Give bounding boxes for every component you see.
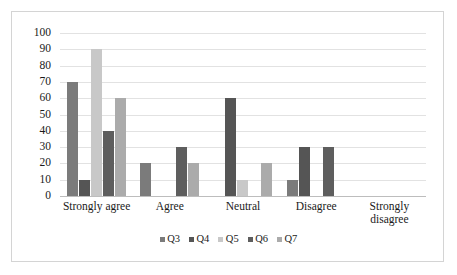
legend-item-label: Q5 bbox=[226, 234, 239, 245]
bar-q3-strongly-agree bbox=[67, 82, 78, 196]
legend-swatch-icon bbox=[248, 237, 253, 242]
bar-q7-neutral bbox=[261, 163, 272, 196]
x-axis-label-strongly-agree: Strongly agree bbox=[60, 200, 133, 213]
legend-item-q4[interactable]: Q4 bbox=[189, 234, 209, 245]
legend-swatch-icon bbox=[218, 237, 223, 242]
bar-slot bbox=[299, 33, 310, 196]
bar-slot bbox=[249, 33, 260, 196]
bar-slot bbox=[408, 33, 419, 196]
y-axis-tick-60: 60 bbox=[40, 92, 52, 104]
plot-area bbox=[60, 33, 426, 196]
legend-item-label: Q6 bbox=[255, 234, 268, 245]
bar-slot bbox=[323, 33, 334, 196]
bar-slot bbox=[176, 33, 187, 196]
bar-slot bbox=[287, 33, 298, 196]
chart-legend: Q3Q4Q5Q6Q7 bbox=[12, 234, 445, 245]
bar-slot bbox=[140, 33, 151, 196]
bar-q4-disagree bbox=[299, 147, 310, 196]
x-axis-label-agree: Agree bbox=[133, 200, 206, 213]
legend-item-label: Q4 bbox=[196, 234, 209, 245]
bar-q6-disagree bbox=[323, 147, 334, 196]
bar-slot bbox=[188, 33, 199, 196]
y-axis-tick-40: 40 bbox=[40, 125, 52, 137]
bar-q6-strongly-agree bbox=[103, 131, 114, 196]
bar-group bbox=[206, 33, 279, 196]
bar-q4-neutral bbox=[225, 98, 236, 196]
bar-slot bbox=[335, 33, 346, 196]
bar-slot bbox=[79, 33, 90, 196]
y-axis-tick-10: 10 bbox=[40, 174, 52, 186]
bar-slot bbox=[311, 33, 322, 196]
legend-swatch-icon bbox=[189, 237, 194, 242]
bar-group bbox=[133, 33, 206, 196]
bar-group bbox=[353, 33, 426, 196]
bar-q3-disagree bbox=[287, 180, 298, 196]
legend-item-q6[interactable]: Q6 bbox=[248, 234, 268, 245]
bar-slot bbox=[103, 33, 114, 196]
bar-slot bbox=[225, 33, 236, 196]
y-axis-tick-70: 70 bbox=[40, 76, 52, 88]
bar-q5-neutral bbox=[237, 180, 248, 196]
bar-slot bbox=[396, 33, 407, 196]
bar-q7-strongly-agree bbox=[115, 98, 126, 196]
y-axis: 1009080706050403020100 bbox=[12, 33, 56, 196]
bar-slot bbox=[372, 33, 383, 196]
y-axis-tick-0: 0 bbox=[45, 190, 51, 202]
bar-q4-strongly-agree bbox=[79, 180, 90, 196]
bar-slot bbox=[213, 33, 224, 196]
legend-item-label: Q7 bbox=[285, 234, 298, 245]
chart-frame: 1009080706050403020100 Strongly agreeAgr… bbox=[11, 11, 444, 262]
y-axis-tick-30: 30 bbox=[40, 141, 52, 153]
legend-item-q5[interactable]: Q5 bbox=[218, 234, 238, 245]
bar-slot bbox=[152, 33, 163, 196]
bar-q3-agree bbox=[140, 163, 151, 196]
bar-series-layer bbox=[60, 33, 426, 196]
y-axis-tick-50: 50 bbox=[40, 109, 52, 121]
bar-q5-strongly-agree bbox=[91, 49, 102, 196]
bar-slot bbox=[67, 33, 78, 196]
bar-group bbox=[60, 33, 133, 196]
legend-item-q7[interactable]: Q7 bbox=[277, 234, 297, 245]
x-axis-label-neutral: Neutral bbox=[206, 200, 279, 213]
bar-q6-agree bbox=[176, 147, 187, 196]
legend-item-q3[interactable]: Q3 bbox=[160, 234, 180, 245]
bar-q7-agree bbox=[188, 163, 199, 196]
bar-slot bbox=[164, 33, 175, 196]
y-axis-tick-90: 90 bbox=[40, 44, 52, 56]
gridline-0 bbox=[60, 196, 426, 197]
bar-slot bbox=[237, 33, 248, 196]
x-axis-label-strongly-disagree: Strongly disagree bbox=[353, 200, 426, 226]
bar-slot bbox=[384, 33, 395, 196]
bar-group bbox=[280, 33, 353, 196]
bar-slot bbox=[91, 33, 102, 196]
bar-slot bbox=[261, 33, 272, 196]
bar-slot bbox=[115, 33, 126, 196]
legend-swatch-icon bbox=[277, 237, 282, 242]
x-axis-label-disagree: Disagree bbox=[280, 200, 353, 213]
y-axis-tick-20: 20 bbox=[40, 158, 52, 170]
y-axis-tick-80: 80 bbox=[40, 60, 52, 72]
legend-item-label: Q3 bbox=[167, 234, 180, 245]
bar-slot bbox=[360, 33, 371, 196]
legend-swatch-icon bbox=[160, 237, 165, 242]
y-axis-tick-100: 100 bbox=[34, 27, 51, 39]
